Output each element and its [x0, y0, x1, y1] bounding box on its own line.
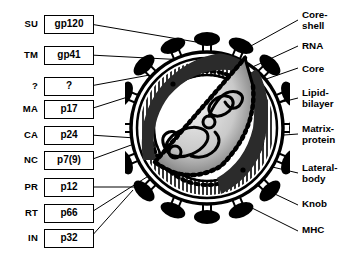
protein-row: PRp12 [12, 177, 94, 197]
protein-abbreviation: IN [12, 233, 44, 243]
protein-name-box: p66 [44, 204, 94, 223]
protein-row: ?? [12, 76, 94, 96]
structure-label: Matrix- protein [302, 124, 335, 145]
protein-name-box: gp41 [44, 46, 94, 65]
protein-row: INp32 [12, 228, 94, 248]
protein-abbreviation: PR [12, 182, 44, 192]
protein-row: RTp66 [12, 203, 94, 223]
protein-abbreviation: ? [12, 81, 44, 91]
protein-abbreviation: MA [12, 104, 44, 114]
protein-row: MAp17 [12, 99, 94, 119]
protein-name-box: p17 [44, 100, 94, 119]
structure-label: Core- shell [302, 10, 328, 31]
protein-abbreviation: CA [12, 130, 44, 140]
structure-label: MHC [302, 225, 324, 236]
structure-label: Core [302, 64, 324, 75]
structure-label: Knob [302, 199, 327, 210]
protein-row: NCp7(9) [12, 150, 94, 170]
structure-label: RNA [302, 41, 323, 52]
protein-row: CAp24 [12, 125, 94, 145]
protein-name-box: ? [44, 77, 94, 96]
virus-structure-diagram: SUgp120TMgp41??MAp17CAp24NCp7(9)PRp12RTp… [0, 0, 351, 255]
virion-illustration [125, 10, 290, 245]
structure-label: Lateral- body [302, 163, 337, 184]
protein-name-box: p24 [44, 126, 94, 145]
protein-name-box: p7(9) [44, 151, 94, 170]
protein-name-box: p12 [44, 178, 94, 197]
protein-abbreviation: TM [12, 50, 44, 60]
protein-row: SUgp120 [12, 14, 94, 34]
protein-abbreviation: NC [12, 155, 44, 165]
protein-row: TMgp41 [12, 45, 94, 65]
protein-abbreviation: RT [12, 208, 44, 218]
structure-label: Lipid- bilayer [302, 88, 334, 109]
protein-name-box: gp120 [44, 15, 94, 34]
protein-abbreviation: SU [12, 19, 44, 29]
protein-name-box: p32 [44, 229, 94, 248]
